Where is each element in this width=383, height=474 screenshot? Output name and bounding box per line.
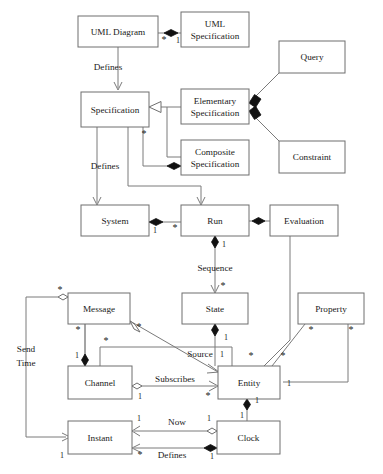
diamond-system-run [149,219,163,226]
class-box-state[interactable]: State [182,293,248,324]
uml-class-diagram: UML DiagramUMLSpecificationQuerySpecific… [0,0,383,474]
class-box-system[interactable]: System [81,205,149,236]
class-box-uml_specification[interactable]: UMLSpecification [181,12,249,47]
class-box-run[interactable]: Run [181,205,249,236]
class-name-text: Channel [85,378,116,388]
class-box-rect [181,89,249,124]
multiplicity-m_entity_sub_star: * [206,390,211,401]
multiplicity-m_source_1: 1 [220,350,224,359]
multiplicity-m_channel_sub_1: 1 [138,392,142,401]
edge-comp-gen-spec [167,107,181,157]
class-box-channel[interactable]: Channel [68,366,132,399]
multiplicity-m_instant_now_1: 1 [137,414,141,423]
diamond-evaluation-run [252,218,265,225]
class-box-rect [181,140,249,175]
edge-label-lbl_source: Source [187,349,213,359]
diamond-clock-defines [204,445,217,452]
triangle-generalization [149,102,161,113]
diamond-constraint [249,106,261,120]
multiplicity-m_msg_left_star: * [58,284,63,295]
diamond-run-sequence [212,236,219,248]
edge-label-lbl_subscribes: Subscribes [155,374,195,384]
class-box-query[interactable]: Query [279,41,345,73]
edge-label-lbl_sequence: Sequence [197,263,232,273]
multiplicity-m_instant_def_star: * [138,449,143,460]
class-box-evaluation[interactable]: Evaluation [270,205,338,236]
class-box-clock[interactable]: Clock [217,421,280,454]
multiplicity-m_umldiag_star: * [162,34,167,45]
class-box-rect [181,12,249,47]
class-box-property[interactable]: Property [298,293,364,324]
multiplicity-m_run_seq_1: 1 [222,240,226,249]
class-box-elementary_specification[interactable]: ElementarySpecification [181,89,249,124]
edge-property-entity-left [272,324,305,366]
edge-property-entity-right [283,324,348,382]
class-name-text: Instant [87,433,112,443]
class-name-text: Query [301,52,324,62]
multiplicity-m_clock_def_1: 1 [210,452,214,461]
multiplicity-m_prop_l_star: * [309,324,314,335]
class-name-text: Elementary [194,96,237,106]
arrowhead-source-entity [207,364,219,373]
edge-label-lbl_time: Time [16,358,35,368]
diamond-message-channel [82,354,89,366]
multiplicity-m_entity_clock_1: 1 [255,396,259,405]
multiplicity-m_system_1: 1 [153,226,157,235]
multiplicity-m_entity_right_1: 1 [287,379,291,388]
class-name-text: UML Diagram [91,27,146,37]
class-name-text: Clock [238,433,260,443]
class-name-text: Property [315,304,347,314]
multiplicity-m_msg_bottom_star: * [76,324,81,335]
multiplicity-m_instant_left_1: 1 [60,451,64,460]
edge-label-lbl_send: Send [17,344,36,354]
multiplicity-m_clock_top_1: 1 [240,411,244,420]
multiplicity-m_run_star: * [173,222,178,233]
class-box-instant[interactable]: Instant [68,421,132,454]
class-name-text: Specification [191,31,240,41]
class-box-message[interactable]: Message [68,293,130,324]
class-name-text: UML [205,19,226,29]
class-name-text: Message [83,304,115,314]
class-name-text: Constraint [293,152,332,162]
multiplicity-m_spec_star: * [142,128,147,139]
multiplicity-m_channel_1: 1 [75,351,79,360]
class-name-text: Evaluation [284,216,324,226]
class-name-text: Composite [195,147,235,157]
diamond-channel-subscribes [132,383,142,389]
class-boxes-layer: UML DiagramUMLSpecificationQuerySpecific… [68,12,364,454]
class-box-specification[interactable]: Specification [81,92,149,127]
diamond-query [249,95,261,108]
diagram-canvas: UML DiagramUMLSpecificationQuerySpecific… [0,0,383,474]
class-name-text: Specification [191,159,240,169]
class-name-text: Run [207,216,223,226]
edge-label-lbl_defines_bottom: Defines [158,450,187,460]
diamond-composite-contains [167,163,181,170]
diamond-entity-clock [244,399,251,410]
multiplicity-m_msg_right_star: * [137,321,142,332]
edge-label-lbl_defines_top: Defines [94,62,123,72]
multiplicity-m_entity_top_star: * [249,350,254,361]
class-name-text: System [101,216,128,226]
class-name-text: Specification [191,108,240,118]
class-box-constraint[interactable]: Constraint [279,141,345,173]
diamond-clock-now [207,428,217,434]
class-name-text: Specification [91,105,140,115]
multiplicity-m_channeltop_star: * [104,335,109,346]
multiplicity-m_prop_r_star: * [349,324,354,335]
edge-comp-contains-spec [143,127,178,166]
class-name-text: State [206,304,224,314]
multiplicity-m_state_star: * [221,280,226,291]
multiplicity-m_state_entity_1: 1 [224,333,228,342]
multiplicity-m_umlspec_1: 1 [176,36,180,45]
class-name-text: Entity [238,378,261,388]
diamond-state-entity [212,324,219,336]
multiplicity-m_clock_now_1: 1 [207,414,211,423]
edge-label-lbl_now: Now [168,417,186,427]
class-box-entity[interactable]: Entity [218,366,280,399]
class-box-uml_diagram[interactable]: UML Diagram [78,16,158,47]
edge-label-lbl_defines_mid: Defines [91,161,120,171]
class-box-composite_specification[interactable]: CompositeSpecification [181,140,249,175]
multiplicity-m_prop_left_star: * [281,350,286,361]
